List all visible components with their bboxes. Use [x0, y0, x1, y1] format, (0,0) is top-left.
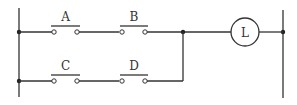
contact-b-terminal-left [120, 30, 124, 34]
lamp-l: L [231, 18, 259, 46]
contact-d-terminal-right [143, 79, 147, 83]
contact-d: D [120, 59, 148, 83]
ladder-diagram: A B L C D [0, 0, 297, 105]
contact-c: C [51, 59, 80, 83]
contact-b-label: B [130, 10, 139, 24]
contact-a: A [51, 10, 80, 34]
lamp-label: L [241, 26, 249, 40]
contact-a-terminal-left [52, 30, 56, 34]
contact-b: B [120, 10, 148, 34]
contact-d-label: D [129, 59, 139, 73]
contact-c-label: C [61, 59, 70, 73]
contact-d-terminal-left [120, 79, 124, 83]
contact-b-terminal-right [143, 30, 147, 34]
contact-a-terminal-right [75, 30, 79, 34]
contact-c-terminal-right [75, 79, 79, 83]
contact-a-label: A [60, 10, 70, 24]
contact-c-terminal-left [52, 79, 56, 83]
